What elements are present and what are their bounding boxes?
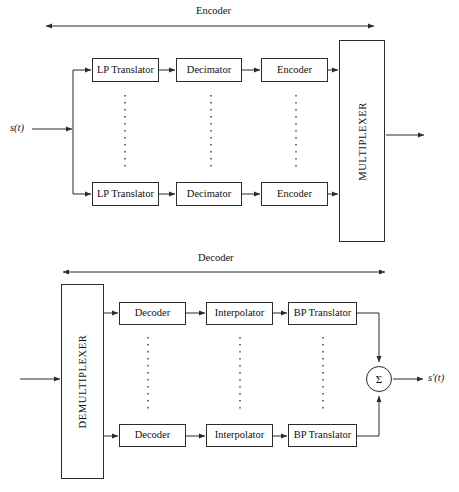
block-label: Interpolator bbox=[215, 430, 265, 441]
block-lp-translator-1[interactable]: LP Translator bbox=[92, 58, 159, 82]
block-label: MULTIPLEXER bbox=[357, 102, 368, 181]
block-label: Encoder bbox=[277, 189, 312, 200]
block-label: Decimator bbox=[187, 189, 231, 200]
block-decoder-2[interactable]: Decoder bbox=[119, 424, 186, 447]
block-label: Interpolator bbox=[215, 308, 265, 319]
block-lp-translator-2[interactable]: LP Translator bbox=[92, 182, 159, 206]
encoder-section-title: Encoder bbox=[196, 5, 231, 16]
decoder-section-title: Decoder bbox=[198, 252, 234, 263]
output-signal-label: s'(t) bbox=[428, 372, 444, 383]
sigma-icon: Σ bbox=[376, 373, 382, 385]
block-label: BP Translator bbox=[294, 430, 352, 441]
block-encoder-1[interactable]: Encoder bbox=[261, 58, 328, 82]
block-decimator-1[interactable]: Decimator bbox=[176, 58, 242, 82]
block-demultiplexer[interactable]: DEMULTIPLEXER bbox=[61, 284, 104, 479]
block-label: LP Translator bbox=[97, 65, 154, 76]
block-decoder-1[interactable]: Decoder bbox=[119, 302, 186, 325]
block-bp-translator-1[interactable]: BP Translator bbox=[288, 302, 357, 325]
block-interpolator-2[interactable]: Interpolator bbox=[206, 424, 273, 447]
block-interpolator-1[interactable]: Interpolator bbox=[206, 302, 273, 325]
summation-node[interactable]: Σ bbox=[366, 366, 392, 392]
decoder-branch1-to-sum bbox=[357, 313, 379, 362]
block-bp-translator-2[interactable]: BP Translator bbox=[288, 424, 357, 447]
block-decimator-2[interactable]: Decimator bbox=[176, 182, 242, 206]
block-multiplexer[interactable]: MULTIPLEXER bbox=[339, 40, 385, 242]
input-signal-label: s(t) bbox=[10, 122, 24, 133]
block-encoder-2[interactable]: Encoder bbox=[261, 182, 328, 206]
block-label: Encoder bbox=[277, 65, 312, 76]
decoder-branch2-to-sum bbox=[357, 396, 379, 436]
block-label: Decimator bbox=[187, 65, 231, 76]
block-label: BP Translator bbox=[294, 308, 352, 319]
block-label: DEMULTIPLEXER bbox=[77, 335, 88, 429]
block-label: Decoder bbox=[135, 430, 171, 441]
block-label: LP Translator bbox=[97, 189, 154, 200]
block-label: Decoder bbox=[135, 308, 171, 319]
block-diagram-figure: Encoder s(t) LP Translator Decimator Enc… bbox=[0, 0, 459, 492]
